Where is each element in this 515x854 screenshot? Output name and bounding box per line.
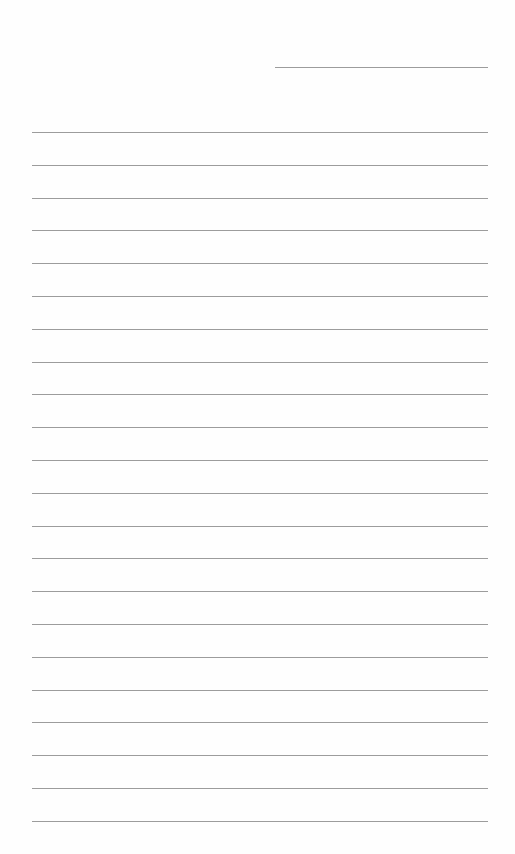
ruled-line (32, 296, 488, 297)
ruled-line (32, 690, 488, 691)
ruled-line (32, 329, 488, 330)
ruled-line (32, 427, 488, 428)
ruled-line (32, 263, 488, 264)
ruled-line (32, 788, 488, 789)
ruled-line (32, 526, 488, 527)
ruled-line (32, 624, 488, 625)
ruled-line (32, 165, 488, 166)
ruled-line (32, 722, 488, 723)
ruled-line (32, 558, 488, 559)
ruled-line (32, 657, 488, 658)
ruled-line (32, 394, 488, 395)
ruled-line (32, 493, 488, 494)
ruled-line (32, 198, 488, 199)
ruled-line (32, 230, 488, 231)
ruled-line (32, 821, 488, 822)
ruled-line (32, 362, 488, 363)
ruled-line (32, 591, 488, 592)
ruled-line (32, 460, 488, 461)
ruled-line (32, 755, 488, 756)
ruled-lines-area (0, 0, 515, 854)
lined-paper-page (0, 0, 515, 854)
ruled-line (32, 132, 488, 133)
